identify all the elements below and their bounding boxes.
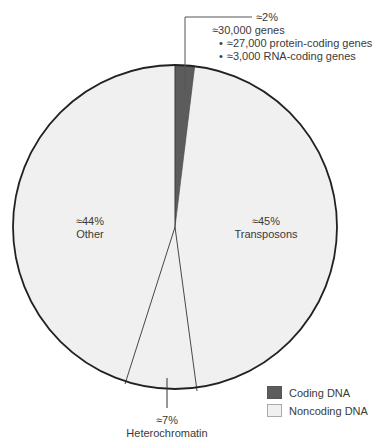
other-percent: ≈44% [62, 215, 118, 228]
heterochromatin-percent: ≈7% [122, 414, 212, 427]
legend-item-noncoding: Noncoding DNA [267, 404, 368, 417]
other-name: Other [62, 228, 118, 241]
pie-chart [0, 0, 374, 448]
coding-percent-label: ≈2% [256, 11, 278, 24]
genes-total-label: ≈30,000 genes [212, 24, 285, 37]
genes-protein-coding-label: ≈27,000 protein-coding genes [219, 37, 372, 50]
legend-label-noncoding: Noncoding DNA [289, 405, 368, 417]
other-label-group: ≈44% Other [62, 215, 118, 241]
legend-item-coding: Coding DNA [267, 386, 350, 399]
genes-rna-coding-label: ≈3,000 RNA-coding genes [219, 50, 356, 63]
legend-swatch-noncoding [267, 404, 282, 417]
legend-label-coding: Coding DNA [289, 387, 350, 399]
legend-swatch-coding [267, 386, 282, 399]
heterochromatin-name: Heterochromatin [122, 427, 212, 440]
heterochromatin-label-group: ≈7% Heterochromatin [122, 414, 212, 440]
transposons-name: Transposons [225, 228, 307, 241]
transposons-percent: ≈45% [225, 215, 307, 228]
transposons-label-group: ≈45% Transposons [225, 215, 307, 241]
